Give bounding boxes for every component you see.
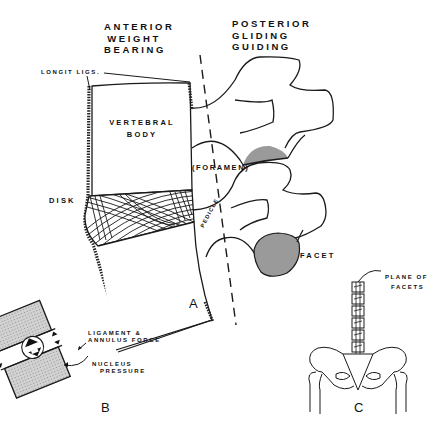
figure-label-c: C: [354, 401, 363, 414]
foramen-label: (FORAMEN): [192, 164, 249, 172]
plane-line-2: FACETS: [385, 282, 428, 292]
vertebral-body-label: VERTEBRAL BODY: [108, 117, 176, 141]
ligament-line-1: LIGAMENT &: [88, 330, 161, 337]
plane-line-1: PLANE OF: [385, 272, 428, 282]
facet-label: FACET: [300, 252, 336, 260]
vertebral-body-line-1: VERTEBRAL: [108, 117, 176, 129]
vertebral-body-line-2: BODY: [108, 129, 176, 141]
disk-label: DISK: [49, 197, 76, 205]
nucleus-pressure-label: NUCLEUS PRESSURE: [92, 361, 146, 375]
figure-label-a: A: [189, 297, 198, 310]
plane-of-facets-label: PLANE OF FACETS: [385, 272, 428, 292]
longit-ligs-leader: [0, 0, 439, 429]
ligament-line-2: ANNULUS FORCE: [88, 337, 161, 344]
figure-label-b: B: [101, 401, 110, 414]
nucleus-line-1: NUCLEUS: [92, 361, 146, 368]
ligament-annulus-label: LIGAMENT & ANNULUS FORCE: [88, 330, 161, 344]
nucleus-line-2: PRESSURE: [92, 368, 146, 375]
